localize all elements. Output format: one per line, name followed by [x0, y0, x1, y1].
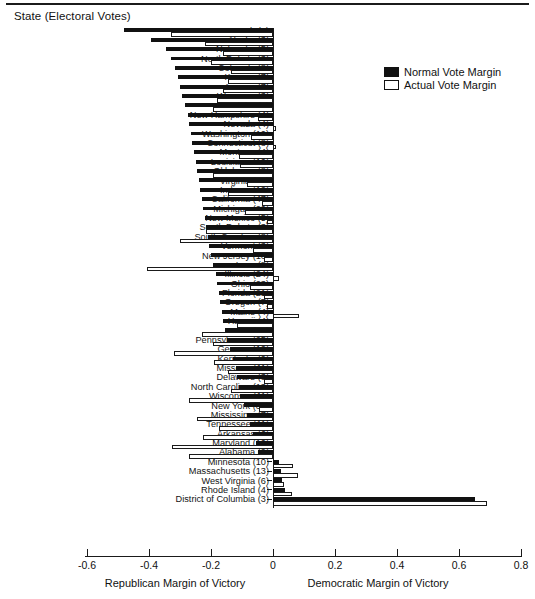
bar-normal	[205, 216, 273, 220]
bar-actual	[273, 482, 284, 487]
bar-actual	[273, 314, 299, 319]
vote-margin-chart: State (Electoral Votes) Utah (5)Alaska (…	[0, 0, 535, 599]
x-axis-tick-label: -0.2	[202, 559, 220, 571]
bar-actual	[273, 464, 293, 469]
x-axis-tick	[459, 549, 460, 557]
x-axis-tick	[521, 549, 522, 557]
x-axis-tick-label: 0.6	[452, 559, 467, 571]
x-axis-tick-label: -0.4	[140, 559, 158, 571]
x-axis-tick	[335, 549, 336, 557]
top-rule	[6, 3, 529, 5]
state-label: District of Columbia (3)	[176, 495, 269, 504]
bar-row: District of Columbia (3)	[0, 497, 535, 506]
democratic-axis-label: Democratic Margin of Victory	[307, 577, 448, 589]
legend-item-normal: Normal Vote Margin	[384, 66, 501, 78]
bar-actual	[273, 126, 276, 131]
bar-rows: Utah (5)Alaska (3)Nebraska (5)North Dako…	[0, 28, 535, 506]
legend-swatch-normal	[384, 67, 399, 77]
x-axis-tick	[149, 549, 150, 557]
bar-normal	[189, 122, 273, 126]
x-axis-tick-label: 0.2	[328, 559, 343, 571]
bar-actual	[273, 473, 298, 478]
y-axis-tick	[267, 471, 272, 472]
bar-actual	[273, 501, 487, 506]
republican-axis-label: Republican Margin of Victory	[105, 577, 245, 589]
x-axis-tick	[87, 549, 88, 557]
bar-actual	[273, 492, 292, 497]
plot-area: Utah (5)Alaska (3)Nebraska (5)North Dako…	[0, 28, 535, 542]
legend-label-normal: Normal Vote Margin	[404, 66, 501, 78]
legend-swatch-actual	[384, 80, 399, 90]
chart-legend: Normal Vote Margin Actual Vote Margin	[384, 66, 501, 92]
x-axis-tick	[397, 549, 398, 557]
y-axis-tick	[267, 480, 272, 481]
bar-actual	[273, 276, 279, 281]
x-axis-tick-label: 0	[270, 559, 276, 571]
bar-normal	[216, 272, 273, 276]
legend-item-actual: Actual Vote Margin	[384, 79, 501, 91]
x-axis-line	[85, 556, 521, 557]
bar-normal	[220, 300, 273, 304]
bar-normal	[192, 141, 273, 145]
bar-normal	[222, 310, 273, 314]
y-axis-tick	[267, 489, 272, 490]
bar-actual	[273, 145, 276, 150]
x-axis-tick-label: 0.8	[514, 559, 529, 571]
x-axis-tick-label: -0.6	[78, 559, 96, 571]
x-axis-tick	[273, 549, 274, 557]
legend-label-actual: Actual Vote Margin	[404, 79, 496, 91]
y-axis-tick	[267, 499, 272, 500]
x-axis-tick-label: 0.4	[390, 559, 405, 571]
y-axis-tick	[267, 461, 272, 462]
y-axis-title: State (Electoral Votes)	[14, 10, 131, 22]
x-axis-tick	[211, 549, 212, 557]
